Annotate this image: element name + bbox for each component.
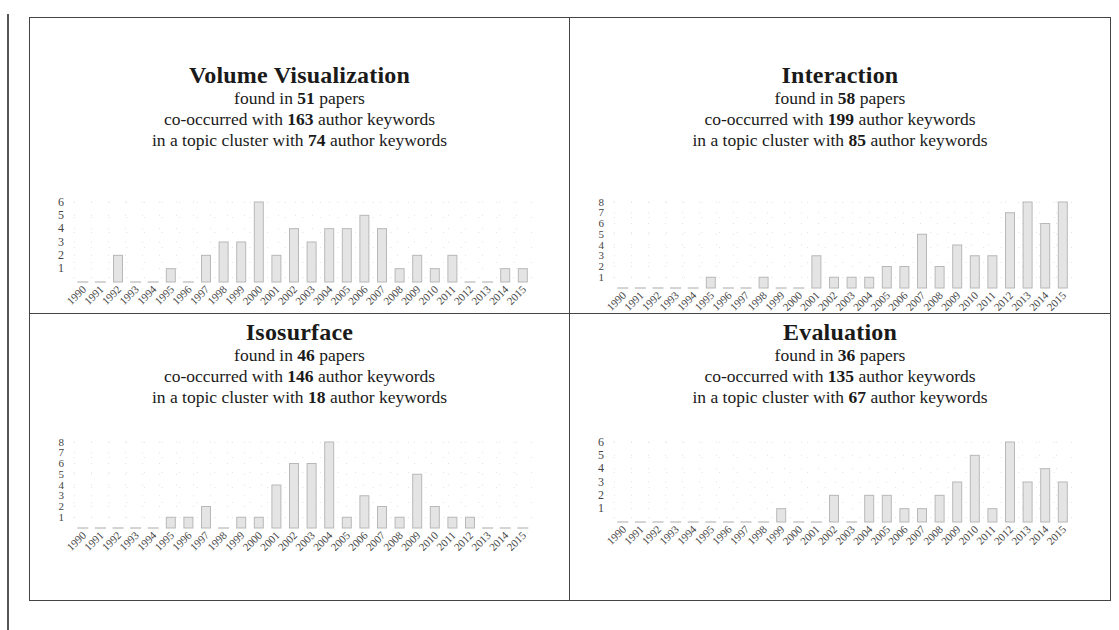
label: author keywords (866, 130, 988, 150)
y-tick-label: 4 (599, 239, 605, 251)
y-tick-label: 5 (58, 208, 64, 222)
bar-chart-interaction: 1234567819901991199219931994199519961997… (570, 196, 1110, 314)
bar (360, 215, 369, 282)
label: author keywords (314, 109, 436, 129)
bar (254, 202, 263, 282)
bar (918, 509, 927, 522)
label: co-occurred with (704, 109, 827, 129)
bar (970, 256, 979, 288)
cluster-line: in a topic cluster with 74 author keywor… (30, 130, 569, 151)
y-tick-label: 7 (59, 446, 65, 458)
bar (935, 495, 944, 522)
bar (237, 242, 246, 282)
bar (184, 517, 193, 528)
paper-count: 46 (297, 345, 315, 365)
keyword-title: Interaction (570, 62, 1110, 88)
bar (1006, 442, 1015, 522)
label: in a topic cluster with (152, 387, 308, 407)
bar (830, 277, 839, 288)
y-tick-label: 6 (59, 457, 65, 469)
bar (237, 517, 246, 528)
label: found in (775, 345, 838, 365)
keyword-panels-grid: Volume Visualization found in 51 papers … (29, 17, 1111, 601)
paper-count: 51 (297, 88, 315, 108)
bar (395, 517, 404, 528)
bar (988, 256, 997, 288)
y-tick-label: 4 (598, 461, 604, 475)
bar (342, 517, 351, 528)
label: author keywords (314, 366, 436, 386)
bar (812, 256, 821, 288)
paper-count: 36 (838, 345, 856, 365)
bar (360, 496, 369, 528)
y-tick-label: 4 (59, 479, 65, 491)
bar (1041, 469, 1050, 522)
label: author keywords (326, 130, 448, 150)
panel-volume-visualization: Volume Visualization found in 51 papers … (30, 18, 570, 314)
bar (166, 517, 175, 528)
paper-count: 58 (838, 88, 856, 108)
y-tick-label: 4 (58, 221, 64, 235)
y-tick-label: 5 (599, 228, 605, 240)
bar (413, 474, 422, 528)
bar (325, 442, 334, 528)
bar (935, 267, 944, 289)
y-tick-label: 6 (598, 436, 604, 449)
cluster-line: in a topic cluster with 85 author keywor… (570, 130, 1110, 151)
bar (706, 277, 715, 288)
y-tick-label: 6 (58, 196, 64, 209)
bar (970, 455, 979, 522)
label: found in (775, 88, 838, 108)
bar (430, 269, 439, 282)
y-tick-label: 8 (599, 196, 605, 208)
bar (413, 255, 422, 282)
page-left-rule (7, 14, 9, 630)
bar (448, 517, 457, 528)
label: papers (855, 88, 905, 108)
bar (290, 229, 299, 282)
label: in a topic cluster with (692, 130, 848, 150)
label: co-occurred with (704, 366, 827, 386)
bar (466, 517, 475, 528)
label: found in (234, 88, 297, 108)
bar (953, 245, 962, 288)
bar (882, 267, 891, 289)
y-tick-label: 1 (58, 261, 64, 275)
cooccur-line: co-occurred with 199 author keywords (570, 109, 1110, 130)
bar (378, 229, 387, 282)
label: author keywords (866, 387, 988, 407)
bar-chart-volume-visualization: 1234561990199119921993199419951996199719… (30, 196, 570, 314)
y-tick-label: 3 (599, 249, 605, 261)
panel-header: Volume Visualization found in 51 papers … (30, 18, 569, 151)
bar (307, 464, 316, 529)
panel-isosurface: Isosurface found in 46 papers co-occurre… (30, 314, 570, 600)
bar (1023, 202, 1032, 288)
cooccur-count: 163 (287, 109, 313, 129)
bar (114, 255, 123, 282)
bar (202, 255, 211, 282)
cluster-line: in a topic cluster with 67 author keywor… (570, 387, 1110, 408)
cooccur-line: co-occurred with 163 author keywords (30, 109, 569, 130)
keyword-title: Volume Visualization (30, 62, 569, 88)
bar (988, 509, 997, 522)
bar-chart-isosurface: 1234567819901991199219931994199519961997… (30, 436, 570, 596)
bar (1041, 224, 1050, 289)
cluster-count: 67 (849, 387, 867, 407)
y-tick-label: 3 (598, 475, 604, 489)
panel-interaction: Interaction found in 58 papers co-occurr… (570, 18, 1110, 314)
bar (202, 507, 211, 529)
label: papers (315, 88, 365, 108)
cooccur-count: 146 (287, 366, 313, 386)
cooccur-line: co-occurred with 135 author keywords (570, 366, 1110, 387)
bar (847, 277, 856, 288)
bar (1023, 482, 1032, 522)
x-tick-label: 2015 (1044, 289, 1068, 313)
y-tick-label: 1 (599, 271, 605, 283)
label: author keywords (854, 366, 976, 386)
bar (378, 507, 387, 529)
x-tick-label: 2015 (1044, 523, 1068, 547)
bar (325, 229, 334, 282)
bar (430, 507, 439, 529)
bar (219, 242, 228, 282)
cluster-count: 18 (308, 387, 326, 407)
